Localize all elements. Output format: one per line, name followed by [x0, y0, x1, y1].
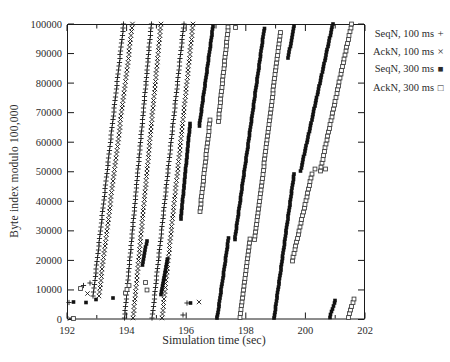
ack300-marker: [350, 22, 354, 26]
ack300-marker: [127, 284, 131, 288]
ack300-marker: [199, 206, 203, 210]
ack300-marker: [260, 184, 264, 188]
ack300-marker: [253, 234, 257, 238]
y-axis-title: Byte index modulo 100,000: [8, 104, 20, 237]
ack300-marker: [225, 44, 229, 48]
ack300-marker: [296, 237, 300, 241]
ack300-marker: [269, 111, 273, 115]
ack300-marker: [202, 176, 206, 180]
y-tick-label: 10000: [36, 284, 62, 295]
ack300-marker: [220, 86, 224, 90]
ack300-marker: [200, 195, 204, 199]
ack300-marker: [324, 142, 328, 146]
ack300-marker: [275, 61, 279, 65]
ack300-marker: [261, 177, 265, 181]
ack300-marker: [72, 317, 76, 321]
ack300-marker: [337, 84, 341, 88]
legend-label: SeqN, 300 ms: [375, 63, 434, 74]
ack300-marker: [79, 287, 83, 291]
ack300-marker: [305, 195, 309, 199]
ack300-marker: [271, 96, 275, 100]
ack300-marker: [334, 96, 338, 100]
y-tick-label: 100000: [31, 19, 63, 30]
ack300-marker: [247, 249, 251, 253]
seq300-marker: [333, 299, 337, 303]
seq300-marker: [111, 296, 115, 300]
ack300-marker: [274, 65, 278, 69]
ack300-marker: [245, 261, 249, 265]
y-tick-label: 30000: [36, 225, 62, 236]
ack300-marker: [321, 158, 325, 162]
y-tick-label: 20000: [36, 255, 62, 266]
ack300-marker: [303, 203, 307, 207]
ack300-marker: [265, 138, 269, 142]
open-square-legend-icon: □: [434, 80, 447, 98]
plus-legend-icon: +: [434, 25, 447, 43]
ack300-marker: [144, 281, 148, 285]
ack300-marker: [208, 122, 212, 126]
ack300-marker: [226, 25, 230, 29]
ack300-marker: [270, 100, 274, 104]
seq300-marker: [166, 257, 170, 261]
ack300-marker: [333, 100, 337, 104]
ack300-marker: [263, 157, 267, 161]
ack300-marker: [308, 184, 312, 188]
x-tick-label: 192: [59, 325, 75, 336]
x-tick-label: 202: [357, 325, 373, 336]
ack300-marker: [266, 134, 270, 138]
ack300-marker: [200, 191, 204, 195]
ack300-marker: [204, 160, 208, 164]
ack300-marker: [206, 141, 210, 145]
ack300-marker: [343, 53, 347, 57]
ack300-marker: [270, 104, 274, 108]
ack300-marker: [225, 37, 229, 41]
ack300-marker: [341, 65, 345, 69]
ack300-marker: [262, 161, 266, 165]
ack300-marker: [267, 123, 271, 127]
ack300-marker: [248, 241, 252, 245]
ack300-marker: [330, 115, 334, 119]
ack300-marker: [203, 164, 207, 168]
seq300-marker: [145, 239, 149, 243]
ack300-marker: [239, 308, 243, 312]
seq300-marker: [188, 122, 192, 126]
ack300-marker: [224, 52, 228, 56]
x-tick-label: 194: [119, 325, 136, 336]
y-tick-label: 40000: [36, 196, 62, 207]
ack300-marker: [302, 210, 306, 214]
ack300-marker: [257, 207, 261, 211]
ack300-marker: [258, 200, 262, 204]
ack300-marker: [217, 112, 221, 116]
ack300-marker: [331, 111, 335, 115]
ack300-marker: [264, 146, 268, 150]
ack300-marker: [306, 191, 310, 195]
ack300-marker: [342, 57, 346, 61]
ack300-marker: [347, 34, 351, 38]
seq300-marker: [189, 301, 193, 305]
seq300-marker: [72, 300, 76, 304]
ack300-marker: [242, 284, 246, 288]
ack300-marker: [325, 138, 329, 142]
ack300-marker: [313, 167, 317, 171]
seq300-marker: [331, 22, 335, 26]
ack300-marker: [202, 172, 206, 176]
ack300-marker: [226, 33, 230, 37]
ack300-marker: [201, 183, 205, 187]
ack300-marker: [258, 196, 262, 200]
ack300-marker: [277, 42, 281, 46]
seq300-marker: [292, 172, 296, 176]
ack300-marker: [344, 49, 348, 53]
cross-legend-icon: ×: [434, 43, 447, 61]
filled-square-legend-icon: ■: [434, 61, 447, 79]
ack300-marker: [335, 92, 339, 96]
ack300-marker: [271, 88, 275, 92]
ack300-marker: [246, 253, 250, 257]
x-axis-title: Simulation time (sec): [162, 333, 265, 348]
seq300-marker: [227, 236, 231, 240]
legend-label: AckN, 300 ms: [373, 82, 434, 93]
ack300-marker: [310, 172, 314, 176]
ack300-marker: [328, 123, 332, 127]
ack300-marker: [276, 50, 280, 54]
seq300-marker: [292, 24, 296, 28]
ack300-marker: [322, 154, 326, 158]
